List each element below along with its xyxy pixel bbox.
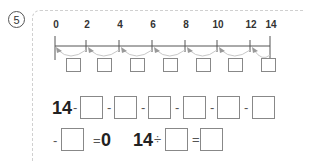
minus-sign: - <box>210 100 214 115</box>
eq1-start: 14 <box>52 98 72 119</box>
eq1-result: 0 <box>101 130 111 151</box>
eq1-box-1[interactable] <box>80 96 103 119</box>
tick-14: 14 <box>265 19 276 30</box>
jump-answer-box-4[interactable] <box>163 58 178 72</box>
eq1-box-5[interactable] <box>217 96 240 119</box>
equals-sign: = <box>93 133 101 148</box>
tick-12: 12 <box>245 19 256 30</box>
equals-sign: = <box>192 132 200 147</box>
eq2-start: 14 <box>133 130 153 151</box>
tick-0: 0 <box>53 19 59 30</box>
minus-sign: - <box>244 100 248 115</box>
jump-answer-box-3[interactable] <box>130 58 145 72</box>
jump-answer-box-6[interactable] <box>228 58 243 72</box>
tick-10: 10 <box>212 19 223 30</box>
eq2-divisor-box[interactable] <box>165 128 188 151</box>
eq1-box-4[interactable] <box>183 96 206 119</box>
jump-answer-box-5[interactable] <box>196 58 211 72</box>
jump-answer-box-7[interactable] <box>261 58 276 72</box>
tick-2: 2 <box>84 19 90 30</box>
minus-sign: - <box>53 133 57 148</box>
jump-answer-box-1[interactable] <box>66 58 81 72</box>
eq1-box-7[interactable] <box>61 128 84 151</box>
tick-8: 8 <box>183 19 189 30</box>
jump-answer-box-2[interactable] <box>97 58 112 72</box>
minus-sign: - <box>175 100 179 115</box>
eq1-box-2[interactable] <box>114 96 137 119</box>
eq2-result-box[interactable] <box>200 128 223 151</box>
tick-6: 6 <box>150 19 156 30</box>
eq1-box-6[interactable] <box>252 96 275 119</box>
eq1-box-3[interactable] <box>148 96 171 119</box>
tick-4: 4 <box>117 19 123 30</box>
minus-sign: - <box>107 100 111 115</box>
divide-sign: ÷ <box>154 132 161 147</box>
minus-sign: - <box>73 100 77 115</box>
minus-sign: - <box>141 100 145 115</box>
